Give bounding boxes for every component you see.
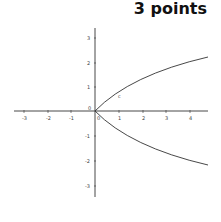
svg-text:2: 2 (142, 115, 145, 121)
svg-text:-2: -2 (46, 115, 51, 121)
y-tick-labels: 3 2 1 0 -1 -2 -3 (85, 35, 91, 189)
svg-text:-2: -2 (85, 158, 90, 164)
svg-text:-1: -1 (85, 133, 90, 139)
svg-text:1: 1 (118, 115, 121, 121)
svg-text:-3: -3 (22, 115, 27, 121)
svg-text:-3: -3 (85, 183, 90, 189)
svg-text:3: 3 (87, 35, 90, 41)
point-c-label: c (118, 93, 121, 99)
x-ticks (24, 110, 190, 113)
x-tick-labels: -3 -2 -1 0 1 2 3 4 (22, 115, 192, 121)
svg-text:0: 0 (88, 105, 91, 111)
svg-text:1: 1 (87, 84, 90, 90)
svg-text:2: 2 (87, 60, 90, 66)
svg-text:4: 4 (189, 115, 192, 121)
parabola-chart: -3 -2 -1 0 1 2 3 4 3 2 1 0 -1 -2 -3 c (0, 0, 221, 222)
svg-text:3: 3 (165, 115, 168, 121)
svg-text:-1: -1 (69, 115, 74, 121)
